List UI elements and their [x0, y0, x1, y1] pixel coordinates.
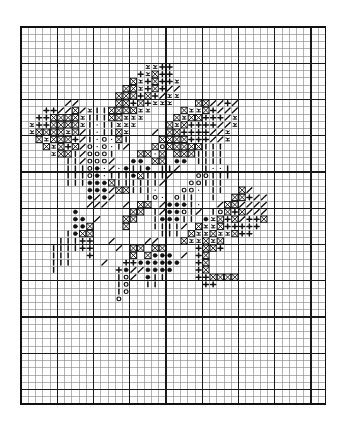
- chart-cell: [154, 189, 155, 190]
- chart-cell: [124, 268, 128, 272]
- chart-cell: [153, 253, 157, 257]
- chart-cell: [146, 268, 150, 272]
- chart-cell: [175, 159, 179, 163]
- chart-grid-svg[interactable]: [20, 26, 327, 405]
- chart-cell: [146, 261, 150, 265]
- chart-cell: [104, 168, 105, 169]
- chart-cell: [131, 174, 135, 178]
- chart-cell: [96, 131, 97, 132]
- chart-cell: [102, 181, 106, 185]
- chart-cell: [73, 210, 77, 214]
- chart-cell: [175, 210, 179, 214]
- chart-cell: [153, 261, 157, 265]
- chart-cell: [168, 268, 172, 272]
- chart-cell: [73, 224, 77, 228]
- chart-cell: [102, 195, 106, 199]
- chart-cell: [175, 203, 179, 207]
- chart-cell: [96, 124, 97, 125]
- chart-cell: [153, 268, 157, 272]
- chart-cell: [73, 232, 77, 236]
- chart-cell: [204, 217, 208, 221]
- chart-cell: [88, 195, 92, 199]
- chart-cell: [111, 146, 112, 147]
- chart-cell: [118, 168, 119, 169]
- chart-cell: [139, 261, 143, 265]
- chart-cell: [160, 253, 164, 257]
- chart-cell: [111, 139, 112, 140]
- chart-cell: [175, 217, 179, 221]
- chart-cell: [81, 224, 85, 228]
- chart-cell: [175, 261, 179, 265]
- chart-cell: [131, 159, 135, 163]
- chart-cell: [139, 159, 143, 163]
- cross-stitch-chart[interactable]: [20, 26, 327, 405]
- chart-cell: [168, 203, 172, 207]
- chart-cell: [104, 175, 105, 176]
- chart-cell: [88, 188, 92, 192]
- chart-cell: [198, 189, 199, 190]
- chart-cell: [95, 174, 99, 178]
- chart-cell: [162, 197, 163, 198]
- chart-cell: [160, 261, 164, 265]
- chart-cell: [95, 166, 99, 170]
- chart-page: [0, 0, 348, 427]
- chart-cell: [168, 253, 172, 257]
- chart-cell: [154, 153, 155, 154]
- chart-cell: [182, 203, 186, 207]
- chart-cell: [73, 217, 77, 221]
- chart-cell: [168, 261, 172, 265]
- chart-cell: [95, 188, 99, 192]
- chart-cell: [124, 166, 128, 170]
- chart-cell: [95, 181, 99, 185]
- chart-cell: [168, 217, 172, 221]
- chart-cell: [88, 181, 92, 185]
- chart-cell: [146, 166, 150, 170]
- chart-cell: [102, 188, 106, 192]
- chart-cell: [96, 146, 97, 147]
- chart-cell: [81, 217, 85, 221]
- chart-cell: [198, 204, 199, 205]
- chart-cell: [168, 210, 172, 214]
- chart-cell: [160, 268, 164, 272]
- chart-cell: [182, 159, 186, 163]
- chart-cell: [160, 217, 164, 221]
- chart-cell: [220, 168, 221, 169]
- chart-cell: [146, 275, 150, 279]
- chart-cell: [212, 168, 213, 169]
- chart-cell: [96, 139, 97, 140]
